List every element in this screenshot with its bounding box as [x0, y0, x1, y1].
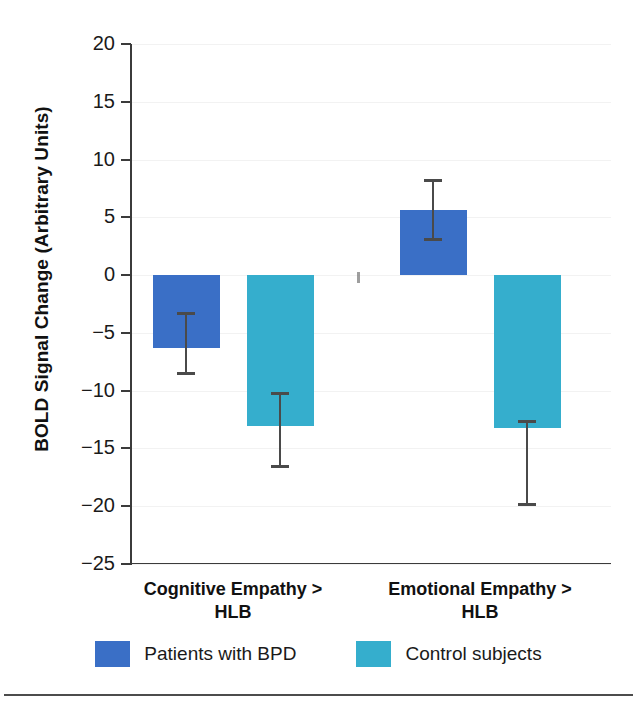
y-axis-tick-label: −5 [45, 322, 115, 342]
y-axis-tick-label: −25 [45, 553, 115, 573]
legend-item-patients: Patients with BPD [95, 641, 296, 667]
gridline [132, 160, 611, 161]
y-axis-tick-label: 0 [45, 264, 115, 284]
y-axis-tick-label: 10 [45, 149, 115, 169]
x-category-label-line: Cognitive Empathy > [103, 578, 363, 601]
gridline [132, 102, 611, 103]
figure-container: BOLD Signal Change (Arbitrary Units) 201… [0, 0, 637, 714]
error-bar-cap-upper [424, 179, 442, 182]
bar [494, 275, 561, 428]
legend-item-controls: Control subjects [356, 641, 541, 667]
figure-bottom-divider [4, 694, 633, 696]
error-bar-cap-upper [518, 420, 536, 423]
scan-speck-artifact [357, 272, 360, 283]
legend-swatch-patients [95, 641, 130, 667]
top-crop-artifact [0, 0, 637, 6]
legend-label-controls: Control subjects [405, 643, 541, 665]
error-bar-cap-lower [518, 503, 536, 506]
y-axis-tick-label: −20 [45, 495, 115, 515]
y-axis-tick-label: −10 [45, 380, 115, 400]
gridline [132, 44, 611, 45]
chart-legend: Patients with BPD Control subjects [0, 641, 637, 667]
error-bar-cap-upper [271, 392, 289, 395]
error-bar-stem [279, 393, 281, 466]
y-axis-tick-label: 20 [45, 33, 115, 53]
y-axis-tick [121, 101, 131, 103]
y-axis-tick [121, 447, 131, 449]
y-axis-tick-label: −15 [45, 437, 115, 457]
error-bar-cap-lower [424, 238, 442, 241]
y-axis-tick-label: 5 [45, 206, 115, 226]
y-axis-tick [121, 43, 131, 45]
y-axis-tick [121, 390, 131, 392]
y-axis-tick [121, 159, 131, 161]
error-bar-cap-upper [177, 312, 195, 315]
y-axis-tick [121, 505, 131, 507]
y-axis-line [130, 44, 132, 565]
y-axis-tick [121, 332, 131, 334]
legend-label-patients: Patients with BPD [144, 643, 296, 665]
error-bar-stem [526, 421, 528, 504]
error-bar-stem [185, 313, 187, 373]
y-axis-tick-label: 15 [45, 91, 115, 111]
y-axis-tick [121, 216, 131, 218]
x-category-label-line: HLB [103, 601, 363, 624]
x-category-label: Emotional Empathy >HLB [350, 578, 610, 624]
error-bar-cap-lower [271, 465, 289, 468]
gridline [132, 217, 611, 218]
x-category-label: Cognitive Empathy >HLB [103, 578, 363, 624]
y-axis-tick [121, 274, 131, 276]
gridline [132, 506, 611, 507]
legend-swatch-controls [356, 641, 391, 667]
error-bar-cap-lower [177, 372, 195, 375]
x-category-label-line: Emotional Empathy > [350, 578, 610, 601]
error-bar-stem [432, 180, 434, 239]
x-category-label-line: HLB [350, 601, 610, 624]
gridline [132, 564, 611, 565]
gridline [132, 448, 611, 449]
y-axis-tick [121, 563, 131, 565]
